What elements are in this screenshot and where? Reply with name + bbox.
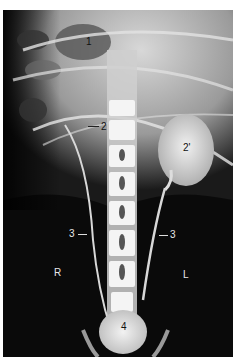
label-2-prime: 2' (183, 143, 190, 153)
label-3-left-ureter: 3 (170, 230, 176, 240)
xray-graphic (3, 10, 233, 357)
label-left-side: L (183, 270, 189, 280)
label-4: 4 (121, 322, 127, 332)
xray-image (3, 10, 233, 357)
leader-line-2 (88, 126, 99, 127)
leader-line-3-left (159, 235, 168, 236)
label-right-side: R (54, 268, 61, 278)
label-3-right-ureter: 3 (69, 229, 75, 239)
leader-line-3-right (78, 234, 87, 235)
label-1: 1 (86, 37, 92, 47)
label-2: 2 (101, 122, 107, 132)
